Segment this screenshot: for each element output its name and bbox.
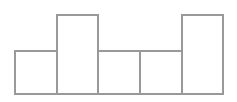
bar-chart: [14, 0, 224, 95]
bar-1: [14, 50, 58, 95]
bar-4: [139, 50, 183, 95]
bar-2: [56, 14, 99, 95]
bar-3: [97, 50, 141, 95]
bar-5: [181, 14, 224, 95]
